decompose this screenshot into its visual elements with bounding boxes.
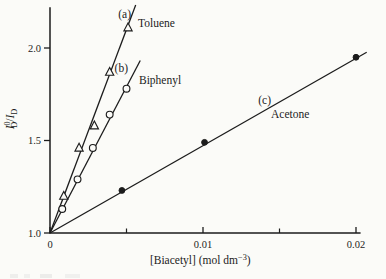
- series-tag-label: (b): [115, 62, 129, 75]
- y-axis-title: I0D/ID: [3, 109, 19, 131]
- data-point-circle-open: [59, 206, 66, 213]
- x-axis-title: [Biacetyl] (mol dm−3): [150, 253, 251, 267]
- cut-off-caption-fragment: [10, 274, 120, 278]
- data-point-circle-open: [89, 145, 96, 152]
- scanned-figure-page: 1.01.52.000.010.02[Biacetyl] (mol dm−3)I…: [0, 0, 386, 279]
- y-tick-label: 1.0: [28, 228, 41, 239]
- series-name-label: Toluene: [138, 17, 175, 29]
- data-point-circle-filled: [202, 139, 208, 145]
- stern-volmer-plot: 1.01.52.000.010.02[Biacetyl] (mol dm−3)I…: [0, 0, 386, 279]
- data-point-circle-filled: [353, 54, 359, 60]
- series-tag-label: (c): [258, 94, 271, 107]
- data-point-triangle-open: [106, 67, 114, 75]
- axes-frame: [50, 7, 361, 233]
- x-tick-label: 0.02: [347, 239, 365, 250]
- series-name-label: Acetone: [271, 108, 309, 120]
- data-point-triangle-open: [124, 23, 132, 31]
- y-tick-label: 1.5: [28, 135, 41, 146]
- data-point-circle-filled: [119, 188, 125, 194]
- data-point-circle-open: [106, 111, 113, 118]
- x-tick-label: 0: [47, 239, 52, 250]
- series-name-label: Biphenyl: [139, 74, 181, 87]
- x-tick-label: 0.01: [194, 239, 212, 250]
- data-point-triangle-open: [60, 191, 68, 199]
- series-tag-label: (a): [118, 8, 131, 21]
- y-tick-label: 2.0: [28, 43, 41, 54]
- data-point-circle-open: [74, 176, 81, 183]
- data-point-circle-open: [123, 85, 130, 92]
